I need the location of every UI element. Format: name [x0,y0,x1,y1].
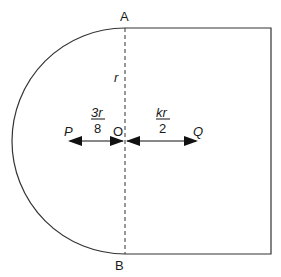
fraction-left-denominator: 8 [94,121,101,136]
fraction-left-numerator: 3r [91,105,103,120]
semicircle-rectangle-diagram: A B r O P Q 3r 8 kr 2 [0,0,281,277]
label-b: B [115,258,124,273]
arrow-o-head-right-icon [126,136,140,146]
fraction-right-numerator: kr [156,105,168,120]
label-o: O [113,124,123,139]
label-radius: r [114,70,119,85]
label-a: A [120,9,129,24]
fraction-right-denominator: 2 [159,121,166,136]
label-p: P [64,124,73,139]
label-q: Q [193,124,203,139]
